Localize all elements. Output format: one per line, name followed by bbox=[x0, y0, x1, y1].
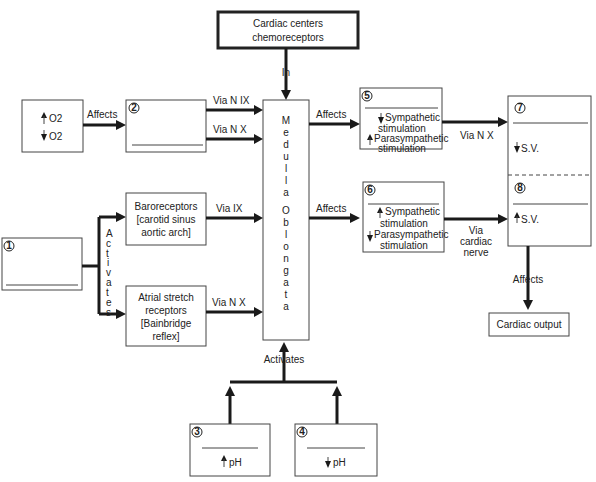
via-n-x-label: Via N X bbox=[460, 130, 494, 141]
svg-text:d: d bbox=[283, 139, 289, 150]
svg-text:a: a bbox=[283, 277, 289, 288]
svg-text:o: o bbox=[283, 241, 289, 252]
arrow-right-icon bbox=[116, 309, 126, 319]
box-4-number: 4 bbox=[299, 426, 305, 437]
box-8-number: 8 bbox=[517, 182, 523, 193]
stimulation-label: stimulation bbox=[380, 218, 428, 229]
arrow-right-icon bbox=[254, 213, 263, 223]
baroreceptors-label: Baroreceptors bbox=[135, 201, 198, 212]
sv-increase-label: S.V. bbox=[521, 214, 539, 225]
arrow-right-icon bbox=[498, 214, 508, 224]
stimulation-label: stimulation bbox=[380, 240, 428, 251]
activates-label: Activates bbox=[264, 354, 305, 365]
sv-decrease-label: S.V. bbox=[521, 143, 539, 154]
box-1-number: 1 bbox=[6, 240, 12, 251]
box-2-number: 2 bbox=[131, 102, 137, 113]
svg-text:b: b bbox=[283, 217, 289, 228]
ph-down-label: pH bbox=[333, 457, 346, 468]
nerve-label: nerve bbox=[463, 247, 488, 258]
svg-text:M: M bbox=[282, 115, 290, 126]
o2-increase-label: O2 bbox=[49, 113, 63, 124]
cardiac-output-label: Cardiac output bbox=[496, 319, 561, 330]
svg-text:n: n bbox=[283, 253, 289, 264]
svg-text:s: s bbox=[106, 307, 111, 318]
via-n-x-label: Via N X bbox=[212, 297, 246, 308]
svg-text:l: l bbox=[285, 163, 287, 174]
arrow-right-icon bbox=[254, 307, 263, 317]
arrow-up-icon bbox=[332, 386, 342, 396]
arrow-right-icon bbox=[254, 105, 263, 115]
arrow-right-icon bbox=[350, 213, 360, 223]
parasympathetic-label: Parasympathetic bbox=[374, 229, 448, 240]
arrow-up-icon bbox=[225, 386, 235, 396]
in-label: In bbox=[282, 67, 290, 78]
diagram-canvas: Cardiac centers chemoreceptors In M e d … bbox=[0, 0, 596, 482]
box-3-number: 3 bbox=[194, 426, 200, 437]
atrial-line3: [Bainbridge bbox=[141, 318, 192, 329]
arrow-right-icon bbox=[254, 134, 263, 144]
affects-label: Affects bbox=[316, 203, 346, 214]
atrial-line4: reflex] bbox=[152, 331, 179, 342]
svg-text:e: e bbox=[283, 127, 289, 138]
svg-text:u: u bbox=[283, 151, 289, 162]
box-6-number: 6 bbox=[367, 184, 373, 195]
arrow-down-icon bbox=[281, 90, 291, 100]
activates-vertical-label: A c t i v a t e s bbox=[106, 228, 113, 318]
affects-label: Affects bbox=[87, 109, 117, 120]
arrow-down-icon bbox=[523, 300, 533, 310]
sympathetic-label: Sympathetic bbox=[385, 206, 440, 217]
ph-up-label: pH bbox=[229, 457, 242, 468]
affects-label: Affects bbox=[513, 274, 543, 285]
arrow-right-icon bbox=[116, 120, 126, 130]
via-label: Via bbox=[469, 225, 484, 236]
baro-line2: [carotid sinus bbox=[137, 214, 196, 225]
atrial-stretch-label: Atrial stretch bbox=[138, 292, 194, 303]
svg-text:l: l bbox=[285, 229, 287, 240]
svg-text:a: a bbox=[283, 301, 289, 312]
affects-label: Affects bbox=[316, 109, 346, 120]
box-5-number: 5 bbox=[364, 90, 370, 101]
sympathetic-label: Sympathetic bbox=[385, 112, 440, 123]
via-ix-label: Via IX bbox=[216, 203, 243, 214]
box-7-number: 7 bbox=[517, 102, 523, 113]
o2-box bbox=[22, 100, 83, 152]
svg-text:t: t bbox=[285, 289, 288, 300]
chemoreceptors-label: chemoreceptors bbox=[252, 32, 324, 43]
arrow-right-icon bbox=[350, 119, 360, 129]
cardiac-label: cardiac bbox=[460, 236, 492, 247]
svg-text:l: l bbox=[285, 175, 287, 186]
arrow-up-icon bbox=[279, 342, 289, 352]
cardiac-centers-label: Cardiac centers bbox=[253, 18, 323, 29]
stimulation-label: stimulation bbox=[378, 143, 426, 154]
via-n-ix-label: Via N IX bbox=[213, 95, 250, 106]
arrow-right-icon bbox=[116, 212, 126, 222]
baro-line3: aortic arch] bbox=[141, 227, 191, 238]
via-n-x-label: Via N X bbox=[213, 124, 247, 135]
arrow-right-icon bbox=[498, 117, 508, 127]
o2-decrease-label: O2 bbox=[49, 131, 63, 142]
svg-text:O: O bbox=[282, 205, 290, 216]
svg-text:g: g bbox=[283, 265, 289, 276]
cardiac-regulation-diagram: Cardiac centers chemoreceptors In M e d … bbox=[0, 0, 596, 482]
atrial-line2: receptors bbox=[145, 305, 187, 316]
svg-text:a: a bbox=[283, 187, 289, 198]
